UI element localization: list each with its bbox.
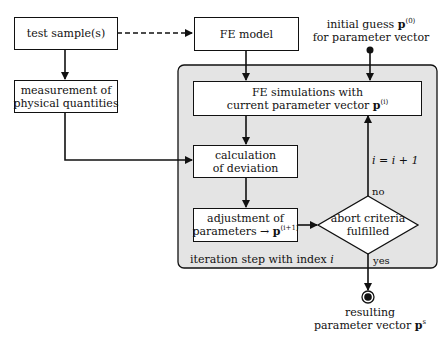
test-sample-label: test sample(s) [27, 27, 105, 40]
calculation-line2: of deviation [213, 162, 279, 175]
end-node-dot [364, 293, 372, 301]
calculation-line1: calculation [215, 149, 276, 162]
fe-simulations-box: FE simulations with current parameter ve… [193, 81, 422, 116]
increment-label: i = i + 1 [372, 154, 418, 167]
test-sample-box: test sample(s) [14, 17, 118, 50]
adjustment-box: adjustment of parameters → p(i+1) [193, 208, 298, 242]
measurement-box: measurement of physical quantities [14, 80, 118, 113]
fe-model-box: FE model [194, 17, 299, 51]
calculation-box: calculation of deviation [193, 145, 298, 178]
adjustment-line2: parameters → p(i+1) [192, 225, 298, 238]
adjustment-line1: adjustment of [207, 212, 284, 225]
fe-simulations-line2: current parameter vector p(i) [227, 99, 388, 112]
no-label: no [372, 185, 384, 198]
iteration-region-label: iteration step with index i [190, 253, 334, 266]
measurement-line1: measurement of [21, 84, 112, 97]
arrow-measurement-to-calculation [65, 112, 192, 160]
result-label: resulting parameter vector ps [300, 306, 440, 332]
fe-simulations-line1: FE simulations with [252, 86, 363, 99]
yes-label: yes [373, 254, 390, 267]
fe-model-label: FE model [220, 28, 273, 41]
abort-criteria-label: abort criteria fulfilled [318, 212, 418, 238]
initial-guess-label: initial guess p(0) for parameter vector [300, 18, 442, 44]
measurement-line2: physical quantities [13, 97, 118, 110]
